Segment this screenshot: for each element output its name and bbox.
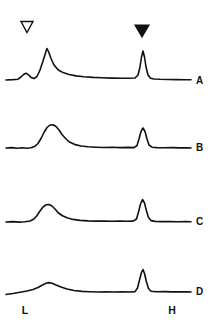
trace-label-d: D <box>196 286 203 297</box>
trace-label-a: A <box>196 75 203 86</box>
trace-line-c <box>6 200 191 223</box>
axis-label-low: L <box>22 304 29 316</box>
trace-line-d <box>6 270 191 295</box>
axis-label-high: H <box>168 304 176 316</box>
trace-label-b: B <box>196 142 203 153</box>
chromatogram-figure: A B C D L H <box>0 0 218 330</box>
trace-line-b <box>6 125 191 149</box>
open-triangle-icon <box>21 22 33 33</box>
filled-triangle-icon <box>135 25 149 37</box>
trace-line-a <box>6 49 191 81</box>
plot-canvas: A B C D L H <box>0 0 218 330</box>
trace-label-c: C <box>196 216 203 227</box>
